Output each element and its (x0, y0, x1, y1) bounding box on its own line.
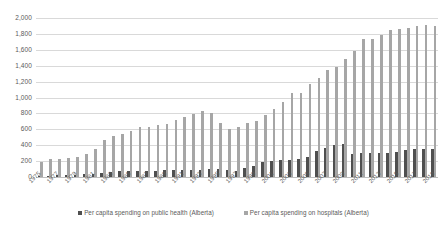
bar-hospitals (166, 124, 169, 177)
bar-hospitals (282, 102, 285, 177)
y-axis-tick-label: 1,600 (15, 47, 32, 54)
bar-hospitals (389, 30, 392, 177)
y-axis-tick-label: 2,000 (15, 15, 32, 22)
x-axis-tick-slot: 2011 (358, 178, 367, 208)
year-group (99, 18, 108, 177)
plot-area: 02004006008001,0001,2001,4001,6001,8002,… (36, 18, 438, 177)
year-group (116, 18, 125, 177)
year-group (304, 18, 313, 177)
x-axis-tick-slot: 2007 (322, 178, 331, 208)
year-group (170, 18, 179, 177)
year-group (233, 18, 242, 177)
year-group (349, 18, 358, 177)
bar-hospitals (103, 140, 106, 177)
bar-hospitals (130, 131, 133, 177)
x-axis-tick-slot: 1975 (36, 178, 45, 208)
year-group (36, 18, 45, 177)
bar-hospitals (273, 109, 276, 177)
x-axis-tick-slot: 2001 (268, 178, 277, 208)
year-group (224, 18, 233, 177)
year-group (259, 18, 268, 177)
bar-hospitals (318, 78, 321, 177)
bar-hospitals (344, 59, 347, 177)
bar-hospitals (183, 117, 186, 177)
bar-hospitals (425, 25, 428, 177)
y-axis-tick-label: 200 (21, 158, 32, 165)
year-group (242, 18, 251, 177)
year-group (161, 18, 170, 177)
x-axis-tick-slot: 1985 (125, 178, 134, 208)
bar-hospitals (371, 39, 374, 177)
year-group (81, 18, 90, 177)
bar-hospitals (210, 113, 213, 177)
bar-hospitals (326, 70, 329, 177)
bar-hospitals (192, 114, 195, 177)
y-axis-tick-label: 400 (21, 142, 32, 149)
legend-item-label: Per capita spending on hospitals (Albert… (250, 210, 369, 216)
year-group (394, 18, 403, 177)
year-group (90, 18, 99, 177)
bar-hospitals (416, 26, 419, 177)
year-group (268, 18, 277, 177)
bar-hospitals (237, 127, 240, 177)
bar-hospitals (362, 39, 365, 177)
year-group (340, 18, 349, 177)
x-axis-tick-slot: 1993 (197, 178, 206, 208)
year-group (134, 18, 143, 177)
y-axis-tick-label: 1,200 (15, 78, 32, 85)
year-group (331, 18, 340, 177)
year-group (277, 18, 286, 177)
x-axis-tick-slot: 1983 (108, 178, 117, 208)
year-group (108, 18, 117, 177)
x-axis-tick-slot: 2019 (429, 178, 438, 208)
year-group (411, 18, 420, 177)
bar-hospitals (380, 35, 383, 177)
year-group (63, 18, 72, 177)
year-group (322, 18, 331, 177)
bar-hospitals (201, 111, 204, 177)
year-group (206, 18, 215, 177)
chart-legend: Per capita spending on public health (Al… (0, 210, 447, 216)
year-group (251, 18, 260, 177)
year-group (45, 18, 54, 177)
x-axis-tick-slot: 2005 (304, 178, 313, 208)
bar-hospitals (434, 26, 437, 177)
x-axis-tick-slot: 1989 (161, 178, 170, 208)
x-axis-labels: 1975197719791981198319851987198919911993… (36, 178, 438, 208)
legend-item[interactable]: Per capita spending on hospitals (Albert… (244, 210, 369, 216)
year-group (143, 18, 152, 177)
bar-hospitals (228, 129, 231, 177)
bar-hospitals (255, 121, 258, 177)
y-axis-tick-label: 800 (21, 110, 32, 117)
bar-hospitals (121, 134, 124, 177)
x-axis-tick-slot: 1987 (143, 178, 152, 208)
bar-hospitals (157, 125, 160, 177)
legend-item[interactable]: Per capita spending on public health (Al… (78, 210, 214, 216)
bar-hospitals (112, 136, 115, 177)
y-axis-tick-label: 1,400 (15, 62, 32, 69)
x-axis-tick-slot: 1979 (72, 178, 81, 208)
legend-item-label: Per capita spending on public health (Al… (84, 210, 214, 216)
y-axis-tick-label: 1,000 (15, 94, 32, 101)
x-axis-tick-slot: 2017 (411, 178, 420, 208)
year-group (125, 18, 134, 177)
year-group (286, 18, 295, 177)
square-marker-icon (78, 211, 82, 215)
year-group (385, 18, 394, 177)
bar-hospitals (219, 123, 222, 177)
bar-hospitals (148, 127, 151, 177)
year-group (215, 18, 224, 177)
year-group (358, 18, 367, 177)
year-group (429, 18, 438, 177)
y-axis-tick-label: 600 (21, 126, 32, 133)
year-group (367, 18, 376, 177)
year-group (313, 18, 322, 177)
bar-hospitals (407, 28, 410, 177)
x-axis-tick-slot: 2003 (286, 178, 295, 208)
bar-hospitals (309, 84, 312, 177)
year-group (376, 18, 385, 177)
x-axis-tick-slot: 2015 (394, 178, 403, 208)
x-axis-tick-slot: 2009 (340, 178, 349, 208)
bar-hospitals (300, 93, 303, 177)
year-group (402, 18, 411, 177)
